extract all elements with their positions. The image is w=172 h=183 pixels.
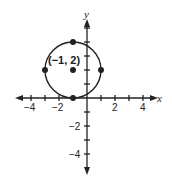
y-tick-label-neg2: −2 xyxy=(69,121,81,132)
y-tick-label-neg4: −4 xyxy=(69,149,81,160)
y-axis-label: y xyxy=(83,8,89,20)
x-tick-label-2: 2 xyxy=(112,102,118,113)
point-top xyxy=(70,39,76,45)
circle-points xyxy=(42,39,104,101)
point-bottom xyxy=(70,95,76,101)
y-axis xyxy=(84,19,90,175)
x-tick-label-neg4: −4 xyxy=(24,102,36,113)
center-point xyxy=(70,67,76,73)
point-right xyxy=(98,67,104,73)
x-tick-label-4: 4 xyxy=(140,102,146,113)
coordinate-plane: x y −4 −2 2 4 −2 −4 (−1, 2) xyxy=(0,0,172,183)
x-axis-label: x xyxy=(156,92,162,104)
center-label: (−1, 2) xyxy=(48,54,80,66)
point-left xyxy=(42,67,48,73)
x-tick-label-neg2: −2 xyxy=(52,102,64,113)
